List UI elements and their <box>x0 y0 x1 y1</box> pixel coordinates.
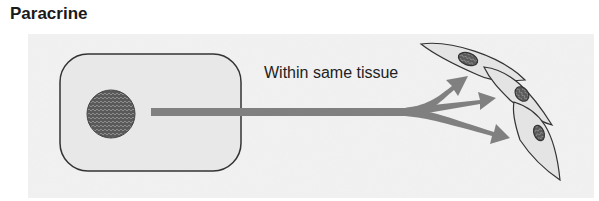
paracrine-diagram <box>0 0 599 201</box>
nucleus-icon <box>87 90 135 138</box>
pathway-label: Within same tissue <box>264 64 398 82</box>
